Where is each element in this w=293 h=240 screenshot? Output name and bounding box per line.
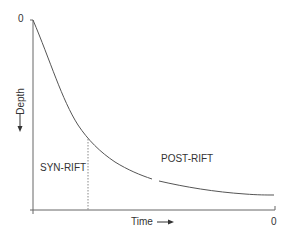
subsidence-diagram — [0, 0, 293, 240]
right-arrow-icon — [168, 220, 174, 225]
subsidence-curve-post-rift — [159, 181, 274, 195]
post-rift-label: POST-RIFT — [161, 153, 213, 164]
x-axis-label: Time — [131, 216, 153, 227]
x-axis-zero-label: 0 — [271, 216, 277, 227]
down-arrow-icon — [18, 126, 23, 132]
syn-rift-label: SYN-RIFT — [40, 162, 86, 173]
y-axis-label: Depth — [15, 85, 26, 119]
subsidence-curve-syn-rift — [33, 20, 152, 179]
y-axis-zero-label: 0 — [18, 13, 24, 24]
